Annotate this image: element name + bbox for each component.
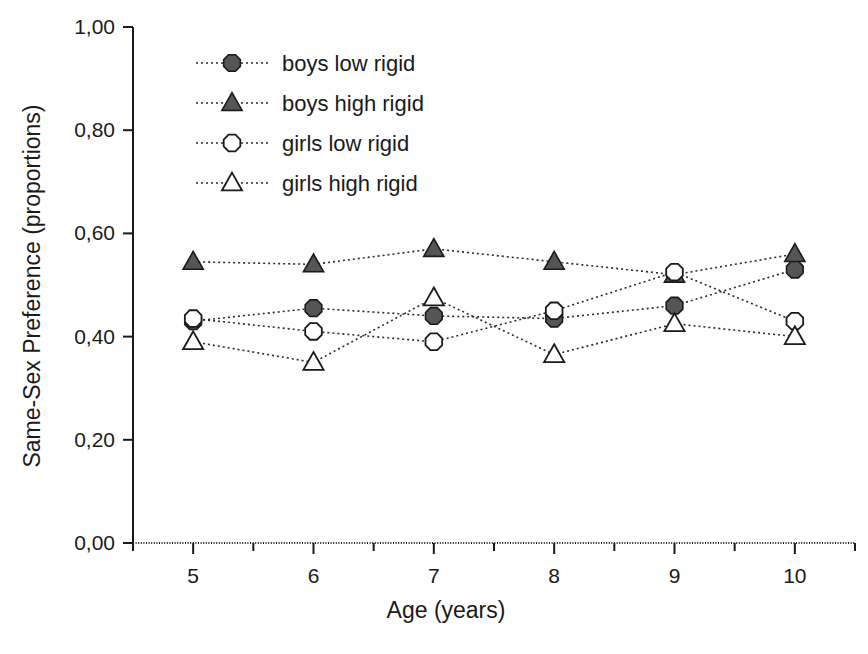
y-axis-title: Same-Sex Preference (proportions) <box>19 104 45 467</box>
marker-open-octagon <box>185 310 202 327</box>
x-tick-label: 7 <box>428 564 440 587</box>
chart-figure: 0,000,200,400,600,801,00 5678910 Same-Se… <box>0 0 868 654</box>
x-tick-label: 9 <box>669 564 681 587</box>
y-tick-label: 1,00 <box>74 15 115 38</box>
legend-label: girls low rigid <box>282 131 409 156</box>
legend-label: girls high rigid <box>282 171 418 196</box>
y-tick-label: 0,80 <box>74 118 115 141</box>
marker-filled-octagon <box>305 300 322 317</box>
same-sex-preference-line-chart: 0,000,200,400,600,801,00 5678910 Same-Se… <box>0 0 868 654</box>
marker-open-octagon <box>305 323 322 340</box>
chart-background <box>0 0 868 654</box>
y-tick-label: 0,60 <box>74 221 115 244</box>
marker-filled-octagon <box>426 308 443 325</box>
x-axis-title: Age (years) <box>387 597 506 623</box>
y-tick-label: 0,40 <box>74 325 115 348</box>
x-tick-label: 10 <box>783 564 806 587</box>
marker-filled-octagon <box>224 55 241 72</box>
legend-label: boys low rigid <box>282 51 415 76</box>
marker-open-octagon <box>666 264 683 281</box>
x-tick-label: 6 <box>308 564 320 587</box>
x-tick-label: 5 <box>187 564 199 587</box>
legend-label: boys high rigid <box>282 91 424 116</box>
marker-filled-octagon <box>666 297 683 314</box>
marker-filled-octagon <box>787 261 804 278</box>
marker-open-octagon <box>224 135 241 152</box>
marker-open-octagon <box>546 302 563 319</box>
marker-open-octagon <box>426 333 443 350</box>
y-tick-label: 0,00 <box>74 531 115 554</box>
x-tick-label: 8 <box>548 564 560 587</box>
y-tick-label: 0,20 <box>74 428 115 451</box>
